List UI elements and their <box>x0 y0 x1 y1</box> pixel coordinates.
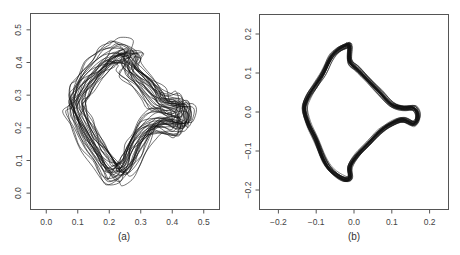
x-tick-label: 0.4 <box>166 217 178 227</box>
y-tick-label: 0.1 <box>14 154 24 166</box>
x-tick-label: 0.3 <box>135 217 147 227</box>
figure-canvas: 0.00.10.20.30.40.5 0.00.10.20.30.40.5 (a… <box>0 0 460 255</box>
y-tick-label: −0.2 <box>243 181 253 198</box>
shape-curve <box>303 42 416 178</box>
y-tick-label: −0.1 <box>243 142 253 159</box>
x-axis-a: 0.00.10.20.30.40.5 <box>40 210 210 227</box>
shape-curve <box>303 44 416 180</box>
x-axis-b: −0.2−0.10.00.10.2 <box>270 210 436 227</box>
shape-curve <box>302 44 416 180</box>
x-tick-label: 0.0 <box>40 217 52 227</box>
shape-curve <box>303 46 416 181</box>
x-tick-label: −0.2 <box>270 217 287 227</box>
x-tick-label: 0.1 <box>72 217 84 227</box>
curves-group-a <box>63 37 197 186</box>
shape-curve <box>304 45 418 181</box>
y-tick-label: 0.2 <box>14 122 24 134</box>
y-tick-label: 0.1 <box>243 67 253 79</box>
y-tick-label: 0.5 <box>14 24 24 36</box>
y-tick-label: 0.0 <box>14 187 24 199</box>
y-tick-label: 0.0 <box>243 106 253 118</box>
panel-label-b: (b) <box>348 231 360 242</box>
curves-group-b <box>302 42 420 181</box>
y-axis-b: −0.2−0.10.00.10.2 <box>243 28 260 199</box>
x-tick-label: −0.1 <box>308 217 325 227</box>
x-tick-label: 0.5 <box>198 217 210 227</box>
panel-label-a: (a) <box>118 231 130 242</box>
plot-panel-a: 0.00.10.20.30.40.5 0.00.10.20.30.40.5 (a… <box>14 14 220 243</box>
shape-curve <box>304 44 417 179</box>
x-tick-label: 0.2 <box>424 217 436 227</box>
x-tick-label: 0.2 <box>103 217 115 227</box>
y-tick-label: 0.2 <box>243 28 253 40</box>
shape-curve <box>303 46 416 181</box>
x-tick-label: 0.1 <box>386 217 398 227</box>
shape-curve <box>302 44 416 179</box>
shape-curve <box>303 43 417 178</box>
y-tick-label: 0.4 <box>14 56 24 68</box>
plot-panel-b: −0.2−0.10.00.10.2 −0.2−0.10.00.10.2 (b) <box>243 15 449 243</box>
y-tick-label: 0.3 <box>14 89 24 101</box>
shape-curve <box>303 46 417 181</box>
x-tick-label: 0.0 <box>348 217 360 227</box>
shape-curve <box>304 45 417 180</box>
y-axis-a: 0.00.10.20.30.40.5 <box>14 24 31 199</box>
